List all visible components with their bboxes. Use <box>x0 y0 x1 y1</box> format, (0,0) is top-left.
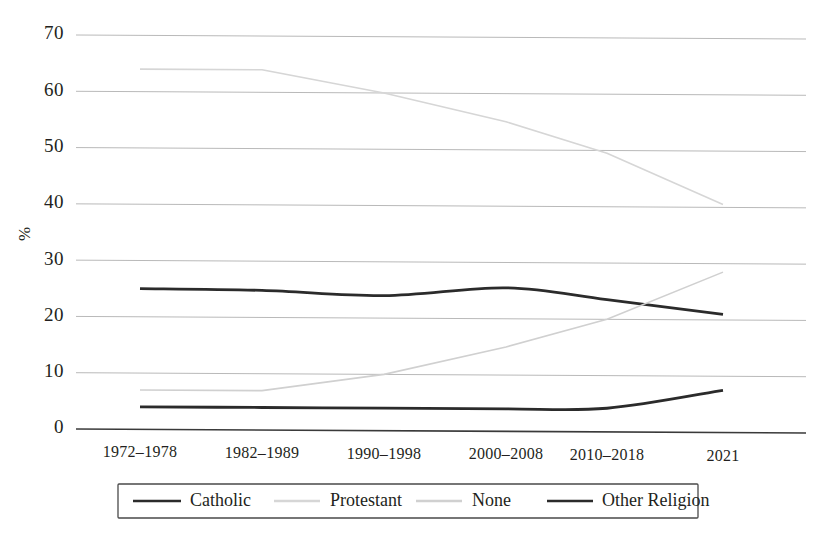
gridline-10 <box>76 373 806 377</box>
y-axis-title: % <box>15 227 34 241</box>
legend-label-none: None <box>472 490 511 510</box>
y-axis-tick-labels: 010203040506070 <box>44 22 64 437</box>
gridline-30 <box>76 260 806 264</box>
chart-canvas: 010203040506070 % 1972–19781982–19891990… <box>0 0 815 535</box>
y-tick-label-10: 10 <box>44 360 64 381</box>
y-axis-title-text: % <box>15 227 34 241</box>
legend-label-other-religion: Other Religion <box>602 490 709 510</box>
gridline-70 <box>76 35 806 39</box>
line-chart-figure: 010203040506070 % 1972–19781982–19891990… <box>0 0 815 535</box>
series-line-protestant <box>140 69 723 204</box>
y-tick-label-60: 60 <box>44 79 64 100</box>
data-series <box>140 69 723 410</box>
y-tick-label-70: 70 <box>44 22 64 43</box>
gridline-50 <box>76 148 806 152</box>
x-category-label-3: 2000–2008 <box>469 445 544 462</box>
gridline-60 <box>76 91 806 95</box>
legend-label-catholic: Catholic <box>190 490 251 510</box>
x-axis-line <box>76 429 806 433</box>
x-category-label-5: 2021 <box>706 447 739 464</box>
gridline-40 <box>76 204 806 208</box>
series-line-other-religion <box>140 390 723 409</box>
chart-legend: CatholicProtestantNoneOther Religion <box>118 484 709 518</box>
y-tick-label-40: 40 <box>44 191 64 212</box>
y-tick-label-50: 50 <box>44 135 64 156</box>
gridlines <box>76 35 806 377</box>
gridline-20 <box>76 316 806 320</box>
x-category-label-1: 1982–1989 <box>225 444 300 461</box>
x-category-label-2: 1990–1998 <box>347 445 422 462</box>
x-category-label-4: 2010–2018 <box>570 446 645 463</box>
y-tick-label-30: 30 <box>44 248 64 269</box>
x-axis-category-labels: 1972–19781982–19891990–19982000–20082010… <box>103 443 740 463</box>
x-axis-baseline <box>76 429 806 433</box>
series-line-catholic <box>140 288 723 315</box>
x-category-label-0: 1972–1978 <box>103 443 178 460</box>
legend-label-protestant: Protestant <box>330 490 402 510</box>
y-tick-label-20: 20 <box>44 304 64 325</box>
y-tick-label-0: 0 <box>54 416 64 437</box>
